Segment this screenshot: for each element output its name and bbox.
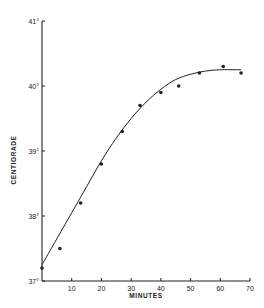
data-point xyxy=(159,91,163,95)
y-tick-label: 40° xyxy=(28,83,39,90)
y-axis: 37°38°39°40°41° xyxy=(28,18,45,285)
curve-path xyxy=(42,70,241,265)
data-point xyxy=(138,104,142,108)
y-tick-label: 39° xyxy=(28,148,39,155)
data-point xyxy=(100,162,104,166)
x-axis: 10203040506070 xyxy=(42,278,254,292)
y-tick-label: 37° xyxy=(28,278,39,285)
x-tick-label: 70 xyxy=(246,285,254,292)
fitted-curve xyxy=(42,70,241,265)
data-point xyxy=(177,84,181,88)
data-point xyxy=(40,266,44,270)
data-point xyxy=(239,71,243,75)
chart: 37°38°39°40°41° 10203040506070 MINUTES C… xyxy=(0,0,264,308)
x-tick-label: 40 xyxy=(157,285,165,292)
y-axis-label: CENTIGRADE xyxy=(10,135,17,184)
y-tick-label: 38° xyxy=(28,213,39,220)
x-tick-label: 50 xyxy=(187,285,195,292)
data-point xyxy=(79,201,83,205)
x-axis-label: MINUTES xyxy=(129,292,163,299)
x-tick-label: 60 xyxy=(216,285,224,292)
data-point xyxy=(120,130,124,134)
y-tick-label: 41° xyxy=(28,18,39,25)
x-tick-label: 20 xyxy=(98,285,106,292)
x-tick-label: 30 xyxy=(127,285,135,292)
data-point xyxy=(58,247,62,251)
data-point xyxy=(221,65,225,69)
data-points xyxy=(40,65,243,270)
x-tick-label: 10 xyxy=(68,285,76,292)
data-point xyxy=(198,71,202,75)
